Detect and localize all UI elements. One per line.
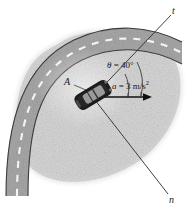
angle-label: θ = 40° — [107, 60, 134, 70]
point-label-a: A — [64, 76, 70, 87]
axis-label-t: t — [172, 5, 175, 16]
theta-value: = 40° — [111, 60, 133, 70]
axis-label-n: n — [169, 194, 174, 205]
acceleration-label: a = 3 m/s2 — [112, 79, 149, 91]
figure-canvas — [0, 0, 187, 213]
mechanics-figure: t n A θ = 40° a = 3 m/s2 — [0, 0, 187, 213]
acceleration-value: = 3 m/s — [117, 81, 146, 91]
acceleration-exponent: 2 — [146, 79, 149, 86]
